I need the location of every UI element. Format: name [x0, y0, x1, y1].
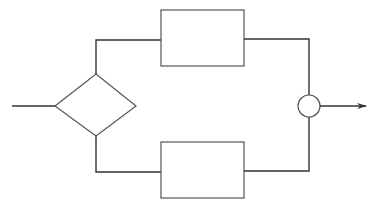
process-box-top: [161, 10, 244, 66]
top-merge-connector: [244, 39, 309, 95]
bottom-merge-connector: [244, 117, 309, 171]
decision-diamond: [55, 74, 136, 136]
flowchart-diagram: [0, 0, 374, 205]
summing-junction-circle: [298, 95, 320, 117]
process-box-bottom: [161, 142, 244, 198]
bottom-branch-connector: [96, 136, 161, 172]
top-branch-connector: [96, 40, 161, 74]
